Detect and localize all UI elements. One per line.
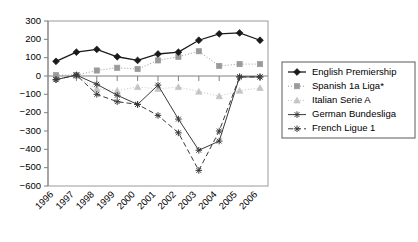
data-point <box>73 49 80 56</box>
data-point <box>93 46 100 53</box>
data-point <box>236 74 243 81</box>
y-tick-label: 300 <box>25 15 41 26</box>
data-point <box>53 58 60 65</box>
data-series-group <box>53 30 264 174</box>
x-tick-label: 2006 <box>237 189 260 212</box>
data-point <box>175 116 182 123</box>
y-tick-label: −500 <box>20 161 41 172</box>
y-tick-label: −200 <box>20 106 41 117</box>
x-tick-label: 2002 <box>155 189 178 212</box>
x-axis-tick-labels: 1996199719981999200020012002200320042005… <box>33 189 260 212</box>
data-point <box>114 92 121 99</box>
data-point <box>294 84 299 89</box>
data-point <box>196 49 201 54</box>
x-tick-label: 1996 <box>33 189 56 212</box>
data-point <box>294 126 301 133</box>
data-point <box>196 88 202 94</box>
x-tick-label: 1999 <box>94 189 117 212</box>
data-point <box>175 130 182 137</box>
data-point <box>155 58 160 63</box>
data-point <box>294 111 301 118</box>
legend-label: Italian Serie A <box>312 94 371 105</box>
y-tick-label: −600 <box>20 180 41 191</box>
data-point <box>257 74 264 81</box>
data-point <box>114 98 121 105</box>
data-point <box>196 167 203 174</box>
plot-border-group <box>48 21 268 186</box>
data-point <box>53 76 60 83</box>
data-point <box>196 147 203 154</box>
x-tick-label: 2000 <box>114 189 137 212</box>
x-tick-label: 1998 <box>73 189 96 212</box>
y-tick-label: 100 <box>25 51 41 62</box>
y-tick-label: 0 <box>36 70 41 81</box>
y-tick-label: −100 <box>20 88 41 99</box>
y-axis-tick-labels: 3002001000−100−200−300−400−500−600 <box>20 15 41 191</box>
legend-label: English Premiership <box>312 66 396 77</box>
x-tick-label: 2005 <box>216 189 239 212</box>
x-tick-label: 2001 <box>135 189 158 212</box>
chart-svg: 3002001000−100−200−300−400−500−600 19961… <box>0 0 418 242</box>
x-tick-label: 2004 <box>196 189 219 212</box>
data-point <box>257 61 262 66</box>
legend-label: Spanish 1a Liga* <box>312 80 384 91</box>
x-tick-label: 2003 <box>175 189 198 212</box>
data-point <box>216 93 222 99</box>
data-point <box>236 30 243 37</box>
chart-legend: English PremiershipSpanish 1a Liga*Itali… <box>282 62 415 138</box>
data-point <box>114 53 121 60</box>
data-point <box>217 63 222 68</box>
data-point <box>216 138 223 145</box>
data-point <box>257 85 263 91</box>
data-point <box>236 87 242 93</box>
data-point <box>134 57 141 64</box>
data-point <box>155 51 162 58</box>
data-point <box>216 30 223 37</box>
data-point <box>195 37 202 44</box>
data-point <box>135 66 140 71</box>
data-point <box>94 68 99 73</box>
y-tick-label: −400 <box>20 143 41 154</box>
chart-figure: 3002001000−100−200−300−400−500−600 19961… <box>0 0 418 242</box>
data-point <box>94 81 101 88</box>
plot-area-border <box>48 21 268 186</box>
data-point <box>73 72 80 79</box>
data-point <box>94 91 101 98</box>
legend-label: French Ligue 1 <box>312 122 375 133</box>
y-tick-label: −300 <box>20 125 41 136</box>
data-point <box>237 61 242 66</box>
data-point <box>155 82 162 89</box>
data-point <box>155 112 162 119</box>
data-point <box>115 65 120 70</box>
y-tick-label: 200 <box>25 33 41 44</box>
x-tick-label: 1997 <box>53 189 76 212</box>
legend-label: German Bundesliga <box>312 108 397 119</box>
y-axis-ticks <box>44 21 48 186</box>
data-point <box>134 101 141 108</box>
data-point <box>257 37 264 44</box>
data-point <box>175 84 181 90</box>
